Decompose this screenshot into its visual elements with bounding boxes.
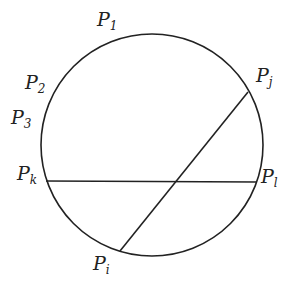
label-base: P	[93, 252, 106, 274]
label-pi: Pi	[93, 254, 110, 276]
label-base: P	[97, 8, 110, 30]
diagram-canvas	[0, 0, 290, 290]
label-base: P	[25, 71, 38, 93]
label-subscript: 2	[38, 82, 46, 96]
circle	[41, 34, 263, 256]
label-pl: Pl	[261, 167, 278, 189]
label-subscript: 1	[110, 19, 118, 33]
chord-pi-pj	[120, 92, 248, 251]
label-p1: P1	[97, 10, 117, 32]
label-subscript: k	[30, 173, 37, 187]
label-pj: Pj	[256, 66, 273, 88]
label-base: P	[261, 165, 274, 187]
label-p2: P2	[25, 73, 45, 95]
label-subscript: l	[274, 176, 278, 190]
chord-pk-pl	[46, 181, 257, 182]
label-subscript: j	[269, 75, 273, 89]
label-subscript: 3	[24, 117, 32, 131]
label-p3: P3	[11, 108, 31, 130]
label-base: P	[256, 64, 269, 86]
label-pk: Pk	[17, 164, 37, 186]
label-subscript: i	[106, 263, 110, 277]
label-base: P	[11, 106, 24, 128]
label-base: P	[17, 162, 30, 184]
